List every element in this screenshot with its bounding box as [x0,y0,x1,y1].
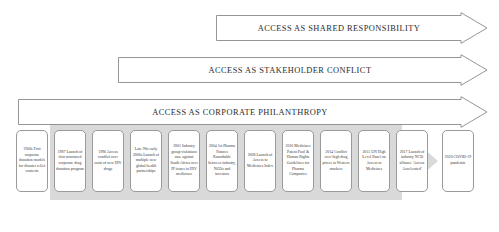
timeline-box: 2008 Launch of Access to Medicines Index [244,130,276,192]
banner-shared-responsibility: ACCESS AS SHARED RESPONSIBILITY [216,12,488,44]
timeline-box: 2004 1st Pharma Futures Roundtable betwe… [206,130,238,192]
timeline-box-text: 2010 Medicines Patent Pool & Human Right… [284,144,312,177]
timeline-box-text: 2004 1st Pharma Futures Roundtable betwe… [208,144,236,177]
timeline-box-text: 1996 Access conflict over costs of new H… [94,150,122,172]
timeline-box: 2020 COVID-19 pandemic [442,130,474,192]
timeline-box-text: 2020 COVID-19 pandemic [444,155,472,166]
banner-corporate-philanthropy: ACCESS AS CORPORATE PHILANTHROPY [18,96,488,128]
timeline-box: Late 90s-early 2000s Launch of multiple … [130,130,162,192]
timeline-box-text: 2008 Launch of Access to Medicines Index [246,153,274,170]
timeline-box-text: 1987 Launch of first structured corporat… [56,150,84,172]
timeline-box: 2017 Launch of industry NCD alliance 'Ac… [396,130,428,192]
timeline-box: 1960s First corporate donation models fo… [16,130,48,192]
timeline-box: 2014 Conflict over high drug prices in W… [320,130,352,192]
timeline-diagram: ACCESS AS CORPORATE PHILANTHROPY ACCESS … [0,0,499,232]
timeline-box: 2001 Industry group violations case agai… [168,130,200,192]
timeline-box: 1987 Launch of first structured corporat… [54,130,86,192]
banner-stakeholder-conflict: ACCESS AS STAKEHOLDER CONFLICT [118,54,488,86]
timeline-box-text: 1960s First corporate donation models fo… [18,147,46,175]
timeline-box-text: 2017 Launch of industry NCD alliance 'Ac… [398,150,426,172]
timeline-box-text: 2014 Conflict over high drug prices in W… [322,150,350,172]
timeline-box: 2015 UN High Level Panel on Access to Me… [358,130,390,192]
timeline-box: 2010 Medicines Patent Pool & Human Right… [282,130,314,192]
timeline-box: 1996 Access conflict over costs of new H… [92,130,124,192]
timeline-box-text: 2001 Industry group violations case agai… [170,144,198,177]
banner-label: ACCESS AS SHARED RESPONSIBILITY [216,12,462,44]
banner-label: ACCESS AS CORPORATE PHILANTHROPY [18,96,462,128]
timeline-box-text: Late 90s-early 2000s Launch of multiple … [132,147,160,175]
timeline-box-text: 2015 UN High Level Panel on Access to Me… [360,150,388,172]
banner-label: ACCESS AS STAKEHOLDER CONFLICT [118,54,462,86]
